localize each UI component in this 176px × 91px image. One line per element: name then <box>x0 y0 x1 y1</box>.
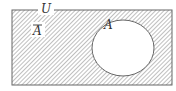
universe-label: U <box>41 2 52 16</box>
venn-diagram: U A A <box>0 0 176 91</box>
complement-label: A <box>32 24 42 38</box>
set-a-circle <box>92 20 154 76</box>
set-a-label: A <box>103 18 113 32</box>
